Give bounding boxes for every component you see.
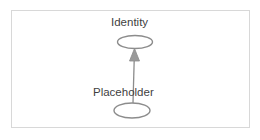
node-placeholder-label: Placeholder [93,86,154,99]
node-placeholder-ellipse[interactable] [114,103,150,118]
node-identity-label: Identity [111,16,148,29]
arrowhead-icon [130,49,140,62]
node-identity-ellipse[interactable] [118,36,153,49]
diagram-canvas: Identity Placeholder [0,0,260,140]
